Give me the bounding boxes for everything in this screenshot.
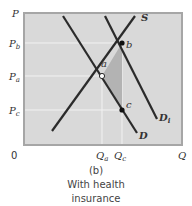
- quantity-label-qc: Qc: [114, 150, 126, 163]
- point-a-label: a: [101, 58, 107, 69]
- caption-line-2: insurance: [0, 192, 192, 206]
- y-axis-label: P: [11, 8, 19, 19]
- supply-label: S: [141, 12, 148, 23]
- point-b-label: b: [126, 39, 132, 50]
- price-label-pa: Pa: [8, 71, 20, 84]
- price-label-pc: Pc: [8, 105, 20, 118]
- point-a: [99, 73, 104, 78]
- point-c-label: c: [126, 99, 132, 110]
- origin-label: 0: [11, 150, 17, 161]
- panel-label: (b): [0, 164, 192, 178]
- x-axis-label: Q: [178, 150, 186, 161]
- point-b: [119, 40, 124, 45]
- caption-line-1: With health: [0, 178, 192, 192]
- demand-label: D: [138, 130, 148, 141]
- price-label-pb: Pb: [8, 38, 21, 51]
- quantity-label-qa: Qa: [96, 150, 108, 163]
- point-c: [119, 107, 124, 112]
